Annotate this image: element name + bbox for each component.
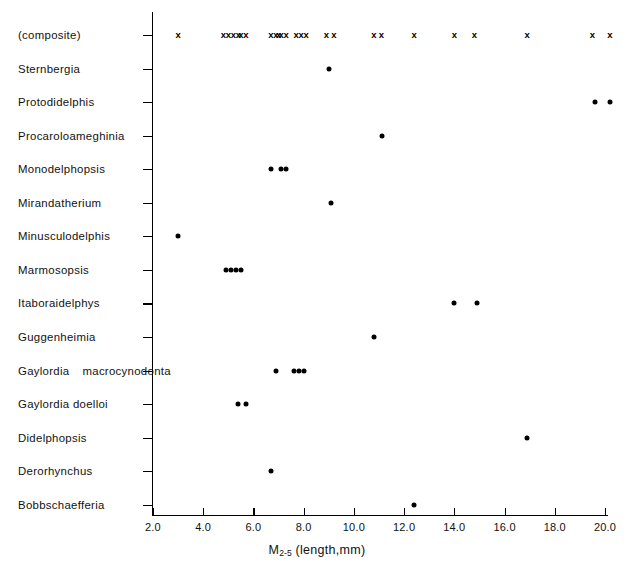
composite-x-marker: x	[243, 30, 248, 40]
y-axis-tick	[143, 303, 152, 304]
category-label-line: Bobbschaefferia	[18, 498, 105, 510]
category-label-line: Procaroloameghinia	[18, 129, 125, 141]
data-point	[284, 167, 289, 172]
x-axis-tick	[505, 508, 506, 516]
y-axis-tick	[143, 471, 152, 472]
x-axis-tick-label: 10.0	[343, 521, 365, 533]
composite-x-marker: x	[331, 30, 336, 40]
y-axis-line	[152, 12, 153, 516]
composite-x-marker: x	[525, 30, 530, 40]
category-label-line: (composite)	[18, 29, 81, 41]
data-point	[608, 100, 613, 105]
y-axis-tick	[143, 270, 152, 271]
x-axis-tick	[555, 508, 556, 516]
data-point	[474, 301, 479, 306]
x-axis-tick	[153, 508, 154, 516]
data-point	[593, 100, 598, 105]
data-point	[238, 267, 243, 272]
x-axis-tick-label: 20.0	[594, 521, 616, 533]
x-axis-tick-label: 16.0	[493, 521, 515, 533]
category-label-line: macrocynodonta	[69, 364, 170, 376]
data-point	[269, 469, 274, 474]
data-point	[525, 435, 530, 440]
composite-x-marker: x	[371, 30, 376, 40]
category-label: Gaylordiamacrocynodonta	[18, 363, 142, 378]
category-label-line: Itaboraidelphys	[18, 297, 100, 309]
x-axis-line	[152, 515, 608, 516]
category-label-line: Monodelphopsis	[18, 163, 105, 175]
data-point	[301, 368, 306, 373]
x-axis-tick-label: 14.0	[443, 521, 465, 533]
x-axis-title: M2-5 (length,mm)	[0, 543, 634, 558]
data-point	[379, 133, 384, 138]
composite-x-marker: x	[283, 30, 288, 40]
category-label-line: Didelphopsis	[18, 431, 87, 443]
x-axis-tick-label: 6.0	[245, 521, 261, 533]
data-point	[412, 502, 417, 507]
x-axis-tick-label: 2.0	[145, 521, 161, 533]
composite-x-marker: x	[590, 30, 595, 40]
category-label-line: Guggenheimia	[18, 330, 96, 342]
data-point	[326, 66, 331, 71]
data-point	[236, 402, 241, 407]
composite-x-marker: x	[324, 30, 329, 40]
y-axis-tick	[143, 102, 152, 103]
category-label: Mirandatherium	[18, 195, 142, 210]
composite-x-marker: x	[379, 30, 384, 40]
y-axis-tick	[143, 203, 152, 204]
y-axis-tick	[143, 35, 152, 36]
x-axis-tick-label: 8.0	[296, 521, 312, 533]
data-point	[243, 402, 248, 407]
category-label-line: Sternbergia	[18, 62, 80, 74]
category-label: Sternbergia	[18, 61, 142, 76]
category-label-line: Minusculodelphis	[18, 230, 110, 242]
category-label: Didelphopsis	[18, 430, 142, 445]
y-axis-tick	[143, 136, 152, 137]
category-label-line: Gaylordia doelloi	[18, 398, 108, 410]
y-axis-tick	[143, 69, 152, 70]
data-point	[269, 167, 274, 172]
category-label-line: Mirandatherium	[18, 196, 101, 208]
category-label: Guggenheimia	[18, 329, 142, 344]
data-point	[372, 334, 377, 339]
x-axis-tick-label: 4.0	[195, 521, 211, 533]
composite-x-marker: x	[175, 30, 180, 40]
category-label: Procaroloameghinia	[18, 128, 142, 143]
category-label: Itaboraidelphys	[18, 296, 142, 311]
category-label: Monodelphopsis	[18, 162, 142, 177]
data-point	[274, 368, 279, 373]
x-axis-tick	[605, 508, 606, 516]
data-point	[176, 234, 181, 239]
y-axis-tick	[143, 169, 152, 170]
composite-x-marker: x	[412, 30, 417, 40]
composite-x-marker: x	[472, 30, 477, 40]
category-label-line: Marmosopsis	[18, 263, 89, 275]
category-label: Gaylordia doelloi	[18, 397, 142, 412]
composite-x-marker: x	[304, 30, 309, 40]
composite-x-marker: x	[607, 30, 612, 40]
x-axis-tick-label: 18.0	[544, 521, 566, 533]
y-axis-tick	[143, 236, 152, 237]
category-label-line: Derorhynchus	[18, 465, 93, 477]
category-label-line: Gaylordia	[18, 364, 69, 376]
category-label: Protodidelphis	[18, 95, 142, 110]
category-label: (composite)	[18, 28, 142, 43]
y-axis-tick	[143, 505, 152, 506]
data-point	[329, 200, 334, 205]
data-point	[452, 301, 457, 306]
category-label: Marmosopsis	[18, 262, 142, 277]
category-label: Bobbschaefferia	[18, 497, 142, 512]
y-axis-tick	[143, 404, 152, 405]
x-axis-tick	[404, 508, 405, 516]
x-axis-tick	[354, 508, 355, 516]
x-axis-tick	[253, 508, 254, 516]
y-axis-tick	[143, 438, 152, 439]
x-axis-tick	[304, 508, 305, 516]
y-axis-tick	[143, 337, 152, 338]
x-axis-tick-label: 12.0	[393, 521, 415, 533]
composite-x-marker: x	[452, 30, 457, 40]
x-axis-title-subscript: 2-5	[279, 548, 291, 558]
x-axis-tick	[454, 508, 455, 516]
category-label: Minusculodelphis	[18, 229, 142, 244]
category-label: Derorhynchus	[18, 464, 142, 479]
